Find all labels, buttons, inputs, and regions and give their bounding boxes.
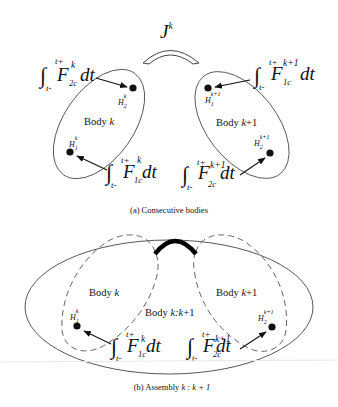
joint-hollow-arc: [143, 51, 199, 65]
point-h2-k1-label: H2k+1: [253, 134, 270, 150]
svg-text:t-: t-: [187, 182, 193, 192]
joint-solid-arc: [155, 241, 196, 254]
scan-artifact-line: [0, 360, 338, 362]
svg-text:t-: t-: [111, 180, 117, 190]
svg-text:dt: dt: [80, 64, 96, 85]
svg-text:dt: dt: [220, 162, 236, 183]
impulse-f2c-k1: ∫ t+ t- F 2c k+1 dt: [180, 157, 236, 192]
svg-text:k: k: [71, 60, 76, 70]
assembly-point-h2-k1-label: H2k+1: [257, 309, 274, 325]
point-h1-k: [66, 148, 73, 155]
arrow-f2c-k1: [240, 158, 265, 175]
svg-text:F: F: [56, 64, 69, 85]
impulse-f1c-k1: ∫ t+ t- F 1c k+1 dt: [252, 57, 316, 92]
joint-label: Jk: [160, 21, 173, 42]
assembly-combined-label: Body k:k+1: [145, 307, 194, 318]
svg-text:F: F: [270, 63, 283, 84]
svg-text:t-: t-: [259, 82, 265, 92]
point-h1-k-label: H1k: [68, 135, 78, 151]
point-h1-k1-label: H1k+1: [204, 91, 221, 107]
assembly-arrow-f2c-k1: [240, 332, 266, 349]
assembly-body-k-label: Body k: [89, 287, 119, 298]
diagram-canvas: Jk Body k H2k H1k ∫ t+ t- F 2c k dt ∫ t+…: [0, 0, 338, 407]
body-k-label: Body k: [84, 116, 114, 127]
point-h2-k: [129, 84, 136, 91]
svg-text:t-: t-: [192, 353, 198, 363]
assembly-arrow-f1c-k: [84, 331, 111, 344]
svg-text:dt: dt: [216, 335, 232, 356]
svg-text:dt: dt: [300, 63, 316, 84]
body-k1-label: Body k+1: [216, 117, 257, 128]
arrow-f1c-k1: [215, 80, 250, 87]
svg-text:dt: dt: [146, 335, 162, 356]
caption-a: (a) Consecutive bodies: [130, 205, 208, 215]
svg-text:2c: 2c: [69, 78, 77, 88]
impulse-f1c-k: ∫ t+ t- F 1c k dt: [104, 155, 158, 190]
point-h2-k-label: H2k: [117, 93, 127, 109]
svg-text:1c: 1c: [134, 175, 142, 185]
arrow-f1c-k: [77, 156, 107, 170]
figure-b: Body k Body k+1 Body k:k+1 H1k H2k+1 ∫ t…: [0, 235, 338, 392]
impulse-f2c-k: ∫ t+ t- F 2c k dt: [38, 56, 96, 93]
svg-text:1c: 1c: [138, 349, 146, 359]
arrow-f2c-k: [96, 78, 127, 87]
assembly-impulse-f2c-k1: ∫ t+ t- F 2c k+1 dt: [185, 329, 232, 363]
svg-text:k+1: k+1: [283, 58, 298, 68]
assembly-body-k1-label: Body k+1: [216, 287, 257, 298]
assembly-impulse-f1c-k: ∫ t+ t- F 1c k dt: [109, 329, 162, 363]
svg-text:1c: 1c: [283, 77, 291, 87]
figure-a: Jk Body k H2k H1k ∫ t+ t- F 2c k dt ∫ t+…: [35, 21, 316, 215]
assembly-point-h1-k-label: H1k: [69, 308, 79, 324]
svg-text:2c: 2c: [208, 179, 216, 189]
caption-b: (b) Assembly k : k + 1: [134, 382, 211, 392]
point-h2-k1: [266, 149, 273, 156]
svg-text:dt: dt: [142, 161, 158, 182]
svg-text:t-: t-: [46, 83, 52, 93]
assembly-point-h2-k1: [268, 323, 275, 330]
